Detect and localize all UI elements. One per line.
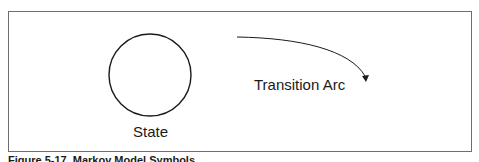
figure-caption: Figure 5-17. Markov Model Symbols xyxy=(8,154,195,162)
transition-arc-label: Transition Arc xyxy=(254,76,345,93)
arrowhead-icon xyxy=(362,75,369,82)
transition-arc-icon xyxy=(237,37,365,76)
state-circle-icon xyxy=(109,34,191,116)
diagram-canvas xyxy=(0,0,479,162)
state-label: State xyxy=(133,123,168,140)
